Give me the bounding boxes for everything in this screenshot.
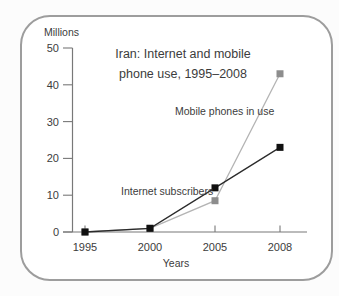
chart-title-line-1: Iran: Internet and mobile [115,47,251,61]
x-tick-label: 2000 [138,241,162,253]
series-marker-1 [82,229,89,236]
figure: 010203040501995200020052008 Millions Ira… [0,0,339,296]
series-marker-1 [147,225,154,232]
y-axis-unit-label: Millions [44,26,79,38]
y-tick-label: 10 [47,189,59,201]
y-tick-label: 30 [47,116,59,128]
y-tick-label: 20 [47,152,59,164]
chart-title-line-2: phone use, 1995–2008 [119,67,247,81]
series-label-mobile-phones: Mobile phones in use [175,105,274,117]
x-tick-label: 2008 [268,241,292,253]
y-tick-label: 0 [53,226,59,238]
x-axis-label: Years [126,257,226,269]
y-tick-label: 50 [47,42,59,54]
x-tick-label: 1995 [73,241,97,253]
chart-title: Iran: Internet and mobile phone use, 199… [83,45,283,84]
series-label-internet-subscribers: Internet subscribers [121,185,213,197]
y-tick-label: 40 [47,79,59,91]
x-tick-label: 2005 [203,241,227,253]
series-marker-1 [277,144,284,151]
series-marker-0 [212,197,219,204]
